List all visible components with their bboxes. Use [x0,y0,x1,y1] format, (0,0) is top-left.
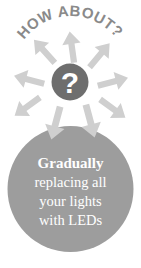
message-line-4: with LEDs [39,212,103,228]
arrow-up-left [27,34,62,70]
message-line-1: Gradually [38,155,104,171]
arrow-left [12,67,47,93]
how-about-leds-infographic: ? HOW ABOUT? Gradually replacing all you… [0,0,141,268]
question-mark-icon: ? [61,66,79,99]
message-line-3: your lights [39,193,102,209]
arrow-down-left [9,90,45,123]
arrow-right [95,69,130,95]
arrow-up [61,30,84,64]
infographic-canvas: ? HOW ABOUT? Gradually replacing all you… [0,0,141,268]
message-line-2: replacing all [34,174,106,190]
arrow-up-right [82,37,116,73]
arrow-down-right [95,92,131,125]
